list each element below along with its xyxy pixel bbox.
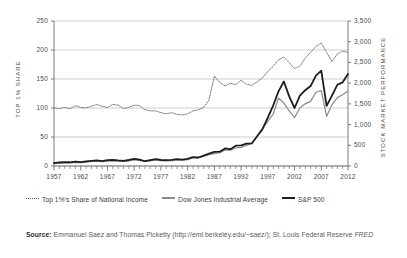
x-axis-tick-label: 1972 xyxy=(119,173,149,180)
y-axis-right-tick-label: 0 xyxy=(354,162,382,169)
gridlines xyxy=(54,21,348,166)
gray-line-swatch-icon xyxy=(162,197,175,199)
x-axis-tick-label: 1977 xyxy=(146,173,176,180)
x-axis-tick-label: 1997 xyxy=(253,173,283,180)
source-text: Emmanuel Saez and Thomas Picketty (http:… xyxy=(52,231,355,238)
y-axis-right-tick-label: 500 xyxy=(354,141,382,148)
legend-item-top1: Top 1%'s Share of National Income xyxy=(26,196,148,203)
x-axis-tick-label: 1967 xyxy=(92,173,122,180)
x-minor-ticks xyxy=(54,166,348,171)
series-line-dow-jones-industrial-average xyxy=(54,91,348,164)
x-axis-tick-label: 1987 xyxy=(199,173,229,180)
series-line-s-p-500 xyxy=(54,71,348,163)
y-axis-left-tick-label: 250 xyxy=(24,17,48,24)
plot-area xyxy=(0,0,407,258)
x-axis-tick-label: 1992 xyxy=(226,173,256,180)
legend-label-top1: Top 1%'s Share of National Income xyxy=(42,196,148,203)
y-tick-marks xyxy=(51,21,351,166)
source-italic-fred: FRED xyxy=(354,231,373,238)
source-label: Source: xyxy=(26,231,52,238)
y-axis-right-tick-label: 3,500 xyxy=(354,17,382,24)
chart-legend: Top 1%'s Share of National Income Dow Jo… xyxy=(26,193,386,205)
legend-item-sp500: S&P 500 xyxy=(282,196,325,203)
y-axis-left-tick-label: 0 xyxy=(24,162,48,169)
x-axis-tick-label: 2012 xyxy=(333,173,363,180)
x-axis-tick-label: 2002 xyxy=(280,173,310,180)
legend-label-dow: Dow Jones Industrial Average xyxy=(178,196,268,203)
dotted-line-swatch-icon xyxy=(26,198,39,199)
source-note: Source: Emmanuel Saez and Thomas Pickett… xyxy=(26,230,382,240)
x-axis-tick-label: 2007 xyxy=(306,173,336,180)
y-axis-right-tick-label: 2,000 xyxy=(354,79,382,86)
y-axis-right-tick-label: 1,500 xyxy=(354,100,382,107)
black-line-swatch-icon xyxy=(282,197,295,199)
x-axis-tick-label: 1982 xyxy=(173,173,203,180)
legend-item-dow: Dow Jones Industrial Average xyxy=(162,196,268,203)
y-axis-left-tick-label: 50 xyxy=(24,133,48,140)
y-axis-right-tick-label: 1,000 xyxy=(354,121,382,128)
legend-label-sp500: S&P 500 xyxy=(298,196,325,203)
y-axis-right-tick-label: 2,500 xyxy=(354,58,382,65)
y-axis-left-tick-label: 150 xyxy=(24,75,48,82)
y-axis-right-tick-label: 3,000 xyxy=(354,38,382,45)
x-axis-tick-label: 1962 xyxy=(66,173,96,180)
x-axis-tick-label: 1957 xyxy=(39,173,69,180)
y-axis-left-tick-label: 200 xyxy=(24,46,48,53)
chart-figure: TOP 1% SHARE STOCK MARKET PERFORMANCE 05… xyxy=(0,0,407,258)
axis-lines xyxy=(54,21,348,166)
y-axis-left-tick-label: 100 xyxy=(24,104,48,111)
series-lines xyxy=(54,43,348,163)
